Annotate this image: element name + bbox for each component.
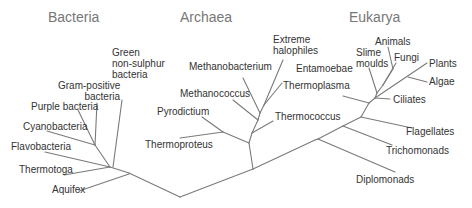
taxon-trichomonads: Trichomonads bbox=[386, 145, 449, 156]
tree-branch bbox=[180, 169, 253, 197]
tree-branch bbox=[377, 85, 383, 93]
tree-branch bbox=[79, 174, 129, 191]
taxon-green-non-sulphur-bacteria: Green non-sulphur bacteria bbox=[112, 47, 165, 80]
taxon-thermoplasma: Thermoplasma bbox=[283, 80, 350, 91]
tree-branch bbox=[343, 96, 369, 103]
taxon-fungi: Fungi bbox=[394, 52, 419, 63]
tree-branch bbox=[249, 133, 252, 143]
tree-branch bbox=[260, 105, 264, 113]
taxon-diplomonads: Diplomonads bbox=[356, 174, 414, 185]
tree-branch bbox=[369, 68, 377, 93]
tree-branch bbox=[361, 117, 412, 128]
tree-branch bbox=[129, 173, 180, 197]
taxon-gram-positive-bacteria: Gram-positive bacteria bbox=[58, 80, 120, 102]
tree-branch bbox=[388, 47, 393, 69]
tree-branch bbox=[233, 100, 258, 120]
domain-label-bacteria: Bacteria bbox=[48, 9, 99, 25]
taxon-thermococcus: Thermococcus bbox=[275, 111, 341, 122]
tree-branch bbox=[408, 77, 427, 82]
taxon-thermotoga: Thermotoga bbox=[19, 164, 73, 175]
tree-branch bbox=[113, 100, 122, 167]
taxon-pyrodictium: Pyrodictium bbox=[157, 106, 209, 117]
tree-branch bbox=[369, 98, 375, 103]
taxon-aquifex: Aquifex bbox=[52, 184, 85, 195]
taxon-plants: Plants bbox=[429, 58, 457, 69]
taxon-animals: Animals bbox=[375, 36, 411, 47]
taxon-ciliates: Ciliates bbox=[393, 94, 426, 105]
tree-branch bbox=[318, 126, 343, 139]
taxon-methanobacterium: Methanobacterium bbox=[189, 61, 272, 72]
taxon-cyanobacteria: Cyanobacteria bbox=[23, 121, 87, 132]
taxon-entamoebae: Entamoebae bbox=[296, 63, 353, 74]
tree-branch bbox=[249, 143, 253, 169]
tree-branch bbox=[223, 132, 249, 143]
tree-branch bbox=[375, 98, 390, 99]
domain-label-eukarya: Eukarya bbox=[349, 9, 400, 25]
tree-branch bbox=[253, 140, 315, 169]
domain-label-archaea: Archaea bbox=[180, 9, 232, 25]
tree-branch bbox=[343, 117, 361, 126]
tree-branch bbox=[361, 103, 369, 117]
taxon-algae: Algae bbox=[429, 76, 455, 87]
tree-branch bbox=[180, 132, 223, 138]
taxon-slime-moulds: Slime moulds bbox=[356, 47, 388, 69]
taxon-extreme-halophiles: Extreme halophiles bbox=[273, 34, 318, 56]
tree-branch bbox=[110, 167, 129, 173]
taxon-flavobacteria: Flavobacteria bbox=[11, 141, 71, 152]
taxon-methanococcus: Methanococcus bbox=[180, 88, 250, 99]
tree-branch bbox=[258, 113, 260, 120]
tree-branch bbox=[264, 83, 282, 105]
tree-branch bbox=[202, 117, 223, 132]
tree-branch bbox=[343, 126, 392, 145]
taxon-purple-bacteria: Purple bacteria bbox=[31, 101, 98, 112]
tree-branch bbox=[318, 139, 395, 172]
taxon-flagellates: Flagellates bbox=[406, 126, 454, 137]
taxon-thermoproteus: Thermoproteus bbox=[145, 139, 213, 150]
